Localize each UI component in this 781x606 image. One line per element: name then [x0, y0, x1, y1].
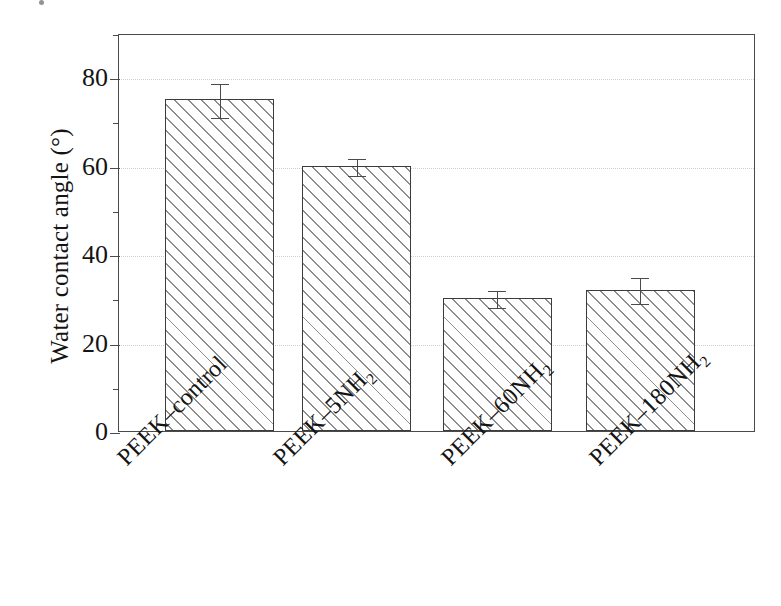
y-axis-minor-tick — [113, 123, 119, 124]
y-axis-major-tick — [110, 345, 120, 346]
error-bar-cap-lower — [211, 118, 229, 119]
error-bar-cap-lower — [631, 304, 649, 305]
error-bar-line — [497, 291, 498, 309]
y-axis-major-tick — [110, 256, 120, 257]
y-axis-major-tick — [110, 79, 120, 80]
y-axis-minor-tick — [113, 300, 119, 301]
y-axis-minor-tick — [113, 389, 119, 390]
y-axis-tick-label-group: 020406080 — [44, 0, 108, 606]
error-bar-cap-upper — [488, 291, 506, 292]
y-axis-major-tick — [110, 433, 120, 434]
y-axis-tick-label: 80 — [48, 65, 108, 91]
error-bar-line — [640, 278, 641, 305]
y-axis-tick-label: 0 — [48, 419, 108, 445]
y-axis-minor-tick — [113, 212, 119, 213]
gridline — [119, 79, 754, 80]
y-axis-tick-label: 40 — [48, 242, 108, 268]
error-bar-cap-lower — [348, 176, 366, 177]
error-bar-cap-upper — [211, 84, 229, 85]
error-bar-line — [220, 84, 221, 119]
figure-canvas: Water contact angle (°) 020406080 PEEK–c… — [0, 0, 781, 606]
y-axis-tick-label: 20 — [48, 331, 108, 357]
y-axis-tick-label: 60 — [48, 154, 108, 180]
y-axis-major-tick — [110, 168, 120, 169]
error-bar-cap-upper — [348, 159, 366, 160]
y-axis-minor-tick — [113, 35, 119, 36]
error-bar-line — [357, 159, 358, 177]
error-bar-cap-lower — [488, 308, 506, 309]
error-bar-cap-upper — [631, 278, 649, 279]
